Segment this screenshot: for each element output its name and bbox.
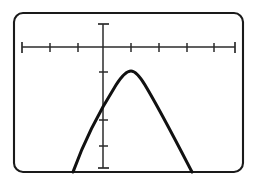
graphing-calculator-screen — [0, 0, 255, 184]
screenshot-root — [0, 0, 255, 184]
calculator-screen-bezel — [14, 13, 243, 172]
